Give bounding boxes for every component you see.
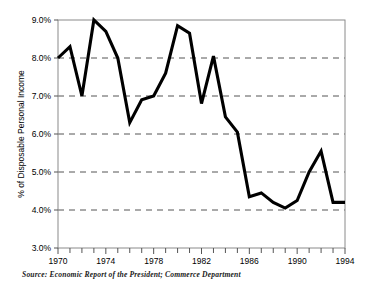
y-tick-label: 3.0% bbox=[32, 243, 52, 253]
y-axis-tick-labels: 9.0%8.0%7.0%6.0%5.0%4.0%3.0% bbox=[32, 15, 52, 253]
x-tick-label: 1982 bbox=[192, 256, 211, 266]
source-note: Source: Economic Report of the President… bbox=[22, 270, 241, 279]
y-axis-title: % of Disposable Personal Income bbox=[16, 70, 26, 198]
y-axis-ticks bbox=[54, 20, 58, 248]
y-axis-title-label: % of Disposable Personal Income bbox=[16, 70, 26, 198]
y-tick-label: 5.0% bbox=[32, 167, 52, 177]
y-tick-label: 4.0% bbox=[32, 205, 52, 215]
x-axis-ticks bbox=[58, 248, 345, 254]
y-tick-label: 7.0% bbox=[32, 91, 52, 101]
x-tick-label: 1974 bbox=[96, 256, 115, 266]
source-label: Source: bbox=[22, 270, 48, 279]
x-axis-tick-labels: 1970197419781982198619901994 bbox=[49, 256, 355, 266]
source-text: Economic Report of the President; Commer… bbox=[50, 270, 241, 279]
y-tick-label: 6.0% bbox=[32, 129, 52, 139]
x-tick-label: 1986 bbox=[240, 256, 259, 266]
x-tick-label: 1994 bbox=[336, 256, 355, 266]
chart-figure: 9.0%8.0%7.0%6.0%5.0%4.0%3.0% 19701974197… bbox=[0, 0, 371, 293]
y-tick-label: 8.0% bbox=[32, 53, 52, 63]
x-tick-label: 1978 bbox=[144, 256, 163, 266]
x-tick-label: 1970 bbox=[49, 256, 68, 266]
x-tick-label: 1990 bbox=[288, 256, 307, 266]
line-chart: 9.0%8.0%7.0%6.0%5.0%4.0%3.0% 19701974197… bbox=[0, 0, 371, 293]
y-tick-label: 9.0% bbox=[32, 15, 52, 25]
